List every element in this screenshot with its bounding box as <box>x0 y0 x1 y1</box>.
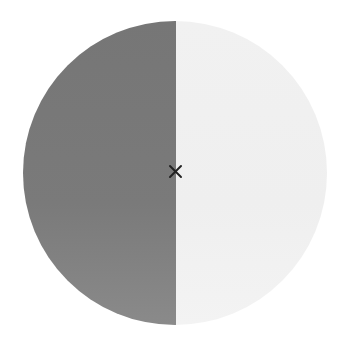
cross-icon <box>168 164 183 179</box>
dark-half <box>23 21 176 325</box>
canvas <box>0 0 340 350</box>
light-half <box>176 21 327 325</box>
